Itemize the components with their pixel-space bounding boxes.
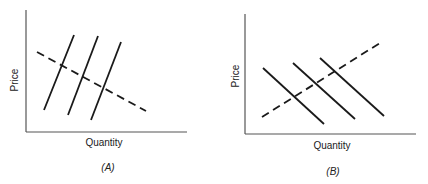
panel-a-y-label: Price [9,68,20,91]
panel-b-supply-dashed-line [262,43,380,117]
panel-a-caption: (A) [101,162,114,173]
panel-b-caption: (B) [326,166,339,177]
panel-a-supply-line-1 [44,35,74,110]
panel-a-demand-dashed-line [37,52,146,111]
supply-demand-diagram: Price Quantity (A) Price Quantity (B) [0,0,428,184]
panel-b-demand-line-2 [293,63,355,119]
panel-b: Price Quantity (B) [230,14,416,177]
panel-a-x-label: Quantity [85,137,122,148]
panel-b-x-label: Quantity [313,140,350,151]
panel-a-supply-line-3 [91,42,121,120]
panel-b-demand-line-3 [320,58,384,116]
panel-b-y-label: Price [230,64,241,87]
panel-a-supply-line-2 [68,36,98,115]
panel-b-demand-line-1 [263,68,324,124]
panel-a: Price Quantity (A) [9,10,187,173]
